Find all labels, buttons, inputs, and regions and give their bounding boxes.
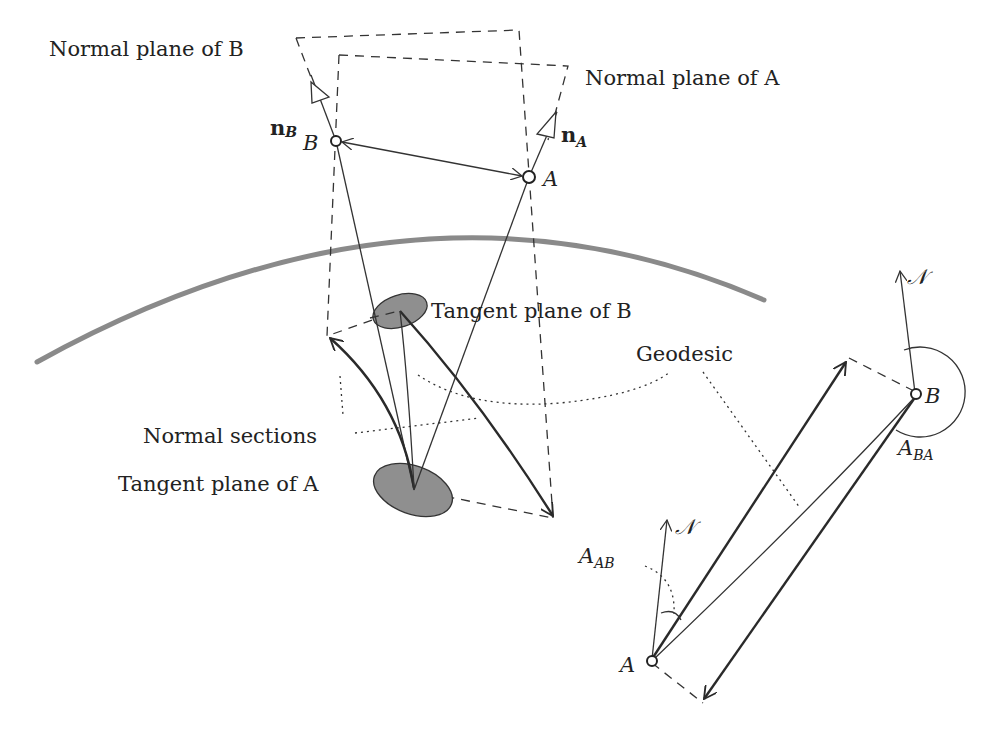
- chord-b-a: [342, 142, 522, 176]
- point-a-marker: [523, 171, 535, 183]
- normal-sections-callout-1: [340, 376, 343, 415]
- normal-plane-a-outline: [339, 55, 568, 140]
- point-a-right-marker: [647, 656, 657, 666]
- normal-sections-callout-2: [355, 418, 480, 433]
- right-dash-bottom: [652, 663, 703, 703]
- north-arrow-b: [900, 271, 915, 393]
- label-normal-vector-a: nA: [561, 122, 587, 150]
- normal-section-right-a-to-b: [652, 362, 846, 659]
- label-azimuth-ab: AAB: [577, 544, 615, 571]
- label-north-b: 𝒩: [907, 265, 933, 289]
- label-tangent-plane-a: Tangent plane of A: [118, 472, 319, 496]
- point-b-marker: [331, 136, 341, 146]
- label-point-a: A: [541, 167, 558, 191]
- right-dash-top: [849, 358, 912, 390]
- label-azimuth-ba: ABA: [896, 436, 934, 463]
- normal-vector-b-head: [311, 82, 329, 103]
- label-north-a: 𝒩: [675, 515, 701, 539]
- label-tangent-plane-b: Tangent plane of B: [431, 299, 632, 323]
- geodesy-diagram: Normal plane of B Normal plane of A Tang…: [0, 0, 992, 731]
- label-normal-sections: Normal sections: [143, 424, 317, 448]
- normal-plane-b-outline: [296, 30, 553, 518]
- label-point-b-right: B: [924, 384, 940, 408]
- normal-vector-a-head: [537, 112, 556, 138]
- label-point-a-right: A: [618, 653, 635, 677]
- normal-plane-a-left-edge: [327, 55, 395, 336]
- normal-plane-b-left-edge: [296, 38, 312, 80]
- point-b-right-marker: [911, 389, 921, 399]
- label-geodesic: Geodesic: [636, 342, 733, 366]
- normal-section-right-b-to-a: [704, 396, 916, 699]
- normal-line-a: [414, 177, 529, 490]
- label-normal-vector-b: nB: [270, 115, 297, 140]
- label-point-b: B: [302, 131, 318, 155]
- label-normal-plane-b: Normal plane of B: [49, 37, 244, 61]
- label-normal-plane-a: Normal plane of A: [585, 66, 780, 90]
- geodesic-callout-right: [703, 372, 800, 508]
